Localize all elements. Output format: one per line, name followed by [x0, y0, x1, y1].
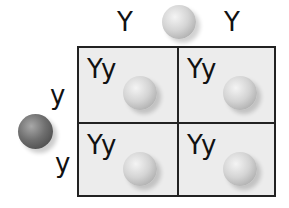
cell-genotype: Yy [187, 56, 214, 82]
cell-genotype: Yy [87, 56, 114, 82]
cell-top-left: Yy [79, 48, 177, 122]
offspring-pea-icon [223, 76, 257, 110]
offspring-pea-icon [223, 152, 257, 186]
top-allele-2: Y [224, 9, 240, 35]
left-parent-pea-icon [18, 114, 53, 149]
cell-genotype: Yy [187, 132, 214, 158]
punnett-grid: Yy Yy Yy Yy [77, 46, 276, 197]
cell-bottom-left: Yy [79, 124, 177, 198]
top-allele-1: Y [117, 9, 133, 35]
left-allele-1: y [50, 82, 65, 108]
left-allele-2: y [55, 150, 70, 176]
top-parent-pea-icon [162, 5, 196, 39]
cell-bottom-right: Yy [179, 124, 277, 198]
offspring-pea-icon [123, 152, 157, 186]
cell-top-right: Yy [179, 48, 277, 122]
cell-genotype: Yy [87, 132, 114, 158]
offspring-pea-icon [123, 76, 157, 110]
